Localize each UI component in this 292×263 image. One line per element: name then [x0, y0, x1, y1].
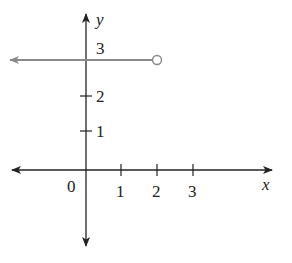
x-tick-label-3: 3: [188, 182, 197, 201]
open-circle-endpoint: [153, 56, 162, 65]
origin-label: 0: [67, 177, 76, 196]
y-tick-label-1: 1: [96, 122, 105, 141]
y-tick-label-3: 3: [96, 39, 105, 58]
x-axis-label: x: [261, 175, 270, 194]
x-tick-label-2: 2: [152, 182, 161, 201]
y-tick-label-2: 2: [96, 87, 105, 106]
graph-canvas: 1 2 3 0 1 2 3 x y: [0, 0, 292, 263]
y-axis-label: y: [94, 10, 104, 29]
x-tick-label-1: 1: [116, 182, 125, 201]
